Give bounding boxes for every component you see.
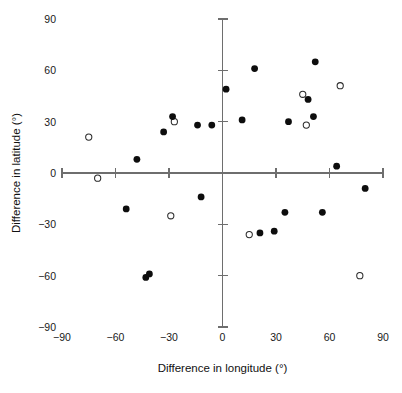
data-point-open [246,232,252,238]
data-point-filled [169,113,176,120]
data-point-filled [134,156,141,163]
data-point-filled [310,113,317,120]
data-point-open [86,134,92,140]
data-point-open [303,122,309,128]
y-tick-label: −90 [38,321,56,333]
x-tick-label: 30 [270,331,282,343]
y-axis-title: Difference in latitude (°) [10,113,22,233]
scatter-plot-figure: −90−60−300306090 −90−60−300306090 Differ… [0,0,402,393]
y-tick-label: 0 [50,167,56,179]
x-tick-label: 60 [324,331,336,343]
y-axis-tick-labels: −90−60−300306090 [38,13,56,333]
data-point-filled [285,118,292,125]
data-point-filled [198,194,205,201]
data-point-filled [194,122,201,129]
x-tick-label: −60 [107,331,125,343]
data-point-filled [239,117,246,124]
x-tick-label: 90 [377,331,389,343]
data-point-filled [333,163,340,170]
y-tick-label: −60 [38,270,56,282]
y-tick-label: 30 [44,116,56,128]
data-point-open [95,175,101,181]
x-axis-tick-labels: −90−60−300306090 [53,331,389,343]
data-point-filled [251,65,258,72]
data-point-open [357,273,363,279]
data-point-filled [305,96,312,103]
data-point-filled [312,58,319,65]
data-point-filled [160,129,167,136]
data-point-filled [208,122,215,129]
data-point-open [300,91,306,97]
x-axis-title: Difference in longitude (°) [158,362,288,374]
data-point-open [168,213,174,219]
x-tick-label: −30 [160,331,178,343]
data-point-filled [146,271,153,278]
data-point-filled [362,185,369,192]
data-point-filled [319,209,326,216]
x-tick-label: 0 [220,331,226,343]
data-point-filled [271,228,278,235]
y-tick-label: 90 [44,13,56,25]
y-tick-label: −30 [38,218,56,230]
data-point-filled [223,86,230,93]
filled-circle-markers [123,58,369,280]
plot-canvas: −90−60−300306090 −90−60−300306090 Differ… [0,0,402,393]
open-circle-markers [86,83,363,279]
y-tick-label: 60 [44,64,56,76]
data-point-filled [123,206,130,213]
data-point-filled [282,209,289,216]
data-point-filled [257,229,264,236]
data-point-open [337,83,343,89]
